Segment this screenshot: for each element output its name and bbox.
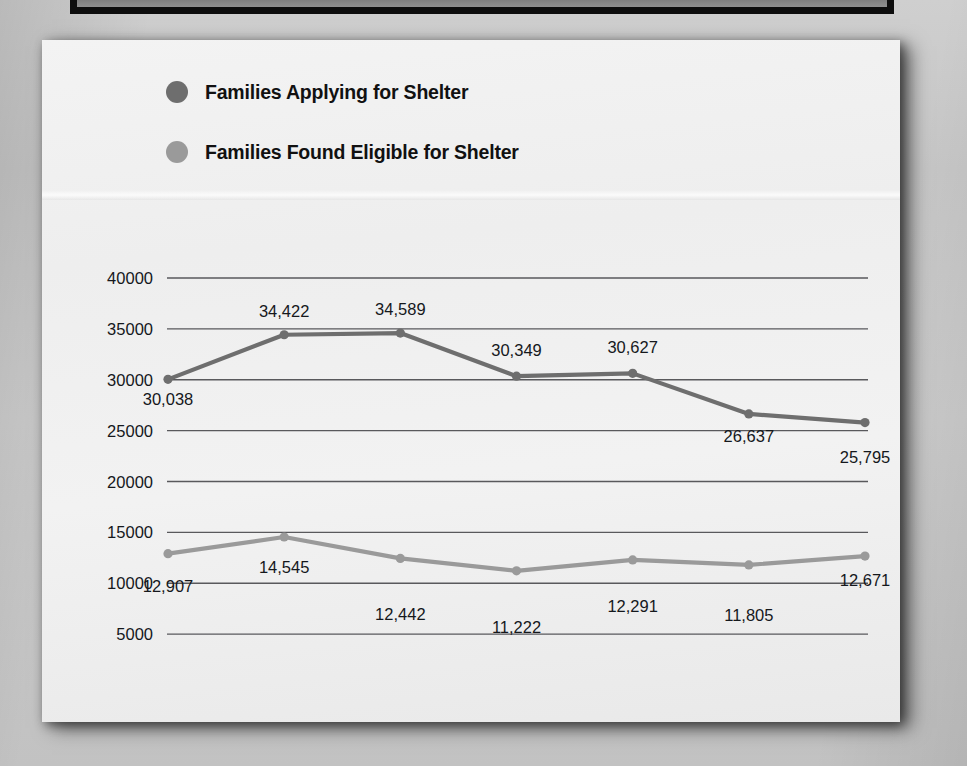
line-chart-svg: 0500010000150002000025000300003500040000… [42,195,900,665]
y-axis-tick-label: 40000 [107,269,153,287]
legend-item-applying[interactable]: Families Applying for Shelter [166,62,766,122]
data-point-marker[interactable] [860,418,869,427]
data-value-label: 12,907 [143,577,193,595]
data-series-layer [163,328,869,575]
data-point-marker[interactable] [280,532,289,541]
data-value-label: 26,637 [724,427,774,445]
data-point-marker[interactable] [396,328,405,337]
y-axis-tick-label: 25000 [107,422,153,440]
legend-item-label: Families Applying for Shelter [205,81,468,104]
data-point-marker[interactable] [280,330,289,339]
y-axis-tick-label: 30000 [107,371,153,389]
data-value-label: 30,038 [143,390,193,408]
data-value-labels: 30,03834,42234,58930,34930,62726,63725,7… [143,300,890,636]
data-point-marker[interactable] [860,551,869,560]
data-point-marker[interactable] [163,375,172,384]
data-point-marker[interactable] [744,560,753,569]
legend-marker-icon [166,81,188,103]
data-value-label: 12,291 [607,597,657,615]
legend-item-eligible[interactable]: Families Found Eligible for Shelter [166,122,766,182]
data-value-label: 12,442 [375,605,425,623]
data-value-label: 25,795 [840,448,890,466]
y-axis-tick-label: 20000 [107,473,153,491]
data-value-label: 11,222 [492,618,541,636]
y-axis-tick-labels: 0500010000150002000025000300003500040000 [107,269,153,665]
chart-legend: Families Applying for Shelter Families F… [166,62,766,182]
data-point-marker[interactable] [628,555,637,564]
legend-marker-icon [166,141,188,163]
data-value-label: 14,545 [259,558,309,576]
data-value-label: 34,422 [259,302,309,320]
data-value-label: 30,349 [491,341,541,359]
y-axis-tick-label: 15000 [107,523,153,541]
data-point-marker[interactable] [744,409,753,418]
data-point-marker[interactable] [512,372,521,381]
data-point-marker[interactable] [512,566,521,575]
data-value-label: 30,627 [607,338,657,356]
data-value-label: 12,671 [840,571,890,589]
y-axis-tick-label: 5000 [116,625,153,643]
y-axis-tick-label: 35000 [107,320,153,338]
data-point-marker[interactable] [396,554,405,563]
data-value-label: 11,805 [724,606,773,624]
plot-area: 0500010000150002000025000300003500040000… [42,195,900,665]
data-value-label: 34,589 [375,300,425,318]
data-point-marker[interactable] [628,369,637,378]
data-point-marker[interactable] [163,549,172,558]
legend-item-label: Families Found Eligible for Shelter [205,141,519,164]
chart-card: Families Applying for Shelter Families F… [42,40,900,722]
top-framed-panel [70,0,894,14]
